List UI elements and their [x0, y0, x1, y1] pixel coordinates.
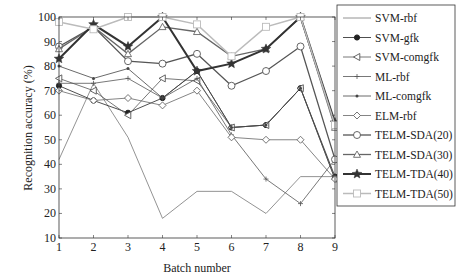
x-axis-label: Batch number	[163, 261, 231, 275]
y-tick-label: 80	[44, 59, 56, 73]
series-svm-gfk	[56, 68, 337, 179]
legend-label: ML-comgfk	[375, 90, 431, 103]
y-tick-label: 30	[44, 182, 56, 196]
y-tick-label: 70	[44, 84, 56, 98]
y-tick-label: 40	[44, 157, 56, 171]
legend-label: TELM-TDA(50)	[375, 188, 453, 201]
x-tick-label: 4	[160, 240, 166, 254]
y-tick-label: 10	[44, 231, 56, 245]
x-tick-label: 2	[91, 240, 97, 254]
line-chart: 123456789102030405060708090100 Batch num…	[0, 0, 458, 278]
x-tick-label: 9	[332, 240, 338, 254]
legend-label: SVM-gfk	[375, 32, 419, 45]
plot-area	[54, 12, 340, 218]
legend-label: SVM-comgfk	[375, 51, 439, 64]
x-tick-label: 6	[229, 240, 235, 254]
y-tick-label: 20	[44, 206, 56, 220]
x-tick-label: 7	[263, 240, 269, 254]
y-axis-label: Recognition accuracy (%)	[21, 65, 35, 190]
y-tick-label: 90	[44, 35, 56, 49]
legend-label: ML-rbf	[375, 71, 410, 83]
legend-label: TELM-SDA(30)	[375, 149, 452, 162]
legend: SVM-rbfSVM-gfkSVM-comgfkML-rbfML-comgfkE…	[337, 5, 455, 206]
legend-label: TELM-SDA(20)	[375, 129, 452, 142]
axes: 123456789102030405060708090100	[38, 10, 338, 254]
x-tick-label: 5	[194, 240, 200, 254]
legend-label: SVM-rbf	[375, 12, 417, 24]
series-ml-rbf	[57, 76, 338, 206]
y-tick-label: 60	[44, 108, 56, 122]
series-elm-rbf	[56, 87, 339, 182]
x-tick-label: 3	[125, 240, 131, 254]
legend-label: TELM-TDA(40)	[375, 168, 453, 181]
x-tick-label: 1	[56, 240, 62, 254]
series-svm-rbf	[59, 83, 335, 218]
x-tick-label: 8	[298, 240, 304, 254]
y-tick-label: 100	[38, 10, 56, 24]
legend-label: ELM-rbf	[375, 110, 417, 122]
y-tick-label: 50	[44, 133, 56, 147]
